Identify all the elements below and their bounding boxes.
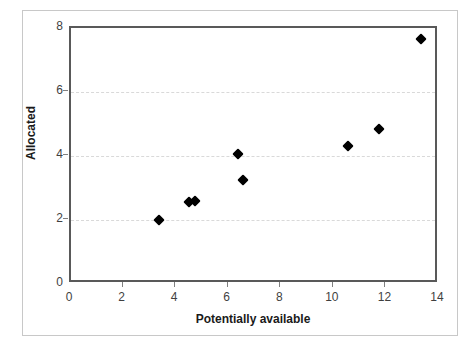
x-tick-mark bbox=[122, 282, 123, 287]
y-tick-mark bbox=[63, 218, 68, 219]
y-tick-mark bbox=[63, 90, 68, 91]
x-tick-label: 6 bbox=[207, 291, 247, 303]
data-point bbox=[415, 34, 426, 45]
y-axis: 02468 bbox=[33, 26, 63, 282]
x-tick-label: 10 bbox=[312, 291, 352, 303]
x-tick-mark bbox=[227, 282, 228, 287]
gridline-y bbox=[71, 92, 435, 93]
y-tick-label: 4 bbox=[37, 148, 63, 160]
y-tick-mark bbox=[63, 154, 68, 155]
x-tick-label: 12 bbox=[364, 291, 404, 303]
data-point bbox=[237, 174, 248, 185]
gridline-y bbox=[71, 220, 435, 221]
y-tick-label: 8 bbox=[37, 20, 63, 32]
y-tick-label: 2 bbox=[37, 212, 63, 224]
x-tick-mark bbox=[384, 282, 385, 287]
y-tick-label: 0 bbox=[37, 276, 63, 288]
x-axis: 02468101214 bbox=[69, 282, 437, 306]
x-tick-mark bbox=[174, 282, 175, 287]
y-tick-label: 6 bbox=[37, 84, 63, 96]
x-tick-label: 8 bbox=[259, 291, 299, 303]
data-point bbox=[373, 123, 384, 134]
plot-area bbox=[69, 26, 437, 282]
x-tick-label: 2 bbox=[102, 291, 142, 303]
data-point bbox=[343, 141, 354, 152]
x-tick-label: 0 bbox=[49, 291, 89, 303]
chart-figure: Allocated 02468 02468101214 Potentially … bbox=[0, 0, 466, 346]
x-tick-label: 14 bbox=[417, 291, 457, 303]
x-tick-mark bbox=[279, 282, 280, 287]
gridline-y bbox=[71, 156, 435, 157]
x-tick-label: 4 bbox=[154, 291, 194, 303]
x-tick-mark bbox=[332, 282, 333, 287]
data-point bbox=[153, 214, 164, 225]
x-axis-title: Potentially available bbox=[69, 312, 437, 326]
data-point bbox=[232, 149, 243, 160]
